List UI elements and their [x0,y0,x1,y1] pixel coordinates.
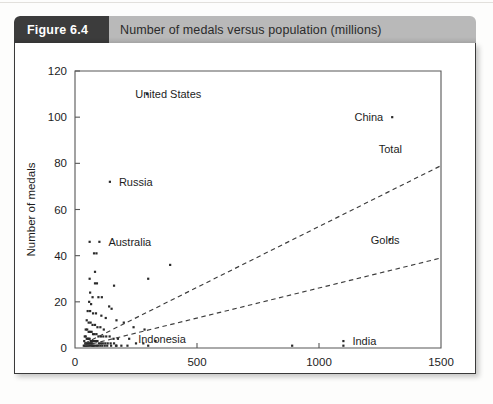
figure-card: Figure 6.4 Number of medals versus popul… [14,16,476,374]
data-point [89,292,91,294]
data-point [132,326,134,328]
figure-title: Number of medals versus population (mill… [120,16,382,43]
data-point [104,342,106,344]
data-point [86,319,88,321]
annotation-total: Total [379,143,402,155]
data-point [87,310,89,312]
data-point [102,342,104,344]
data-point [93,333,95,335]
data-point [126,345,128,347]
data-point [94,282,96,284]
data-point [169,264,171,266]
annotation-australia: Australia [108,236,152,248]
data-point [91,345,93,347]
data-point [100,315,102,317]
data-point [111,308,113,310]
data-point [105,317,107,319]
y-tick-label: 60 [54,204,67,216]
data-points [83,93,394,347]
data-point [147,345,149,347]
data-point [88,322,90,324]
plot-frame [75,71,441,348]
data-point [85,335,87,337]
data-point [112,338,114,340]
data-point [90,303,92,305]
data-point [90,322,92,324]
trend-line-total [85,166,441,344]
data-point [105,335,107,337]
data-point [113,342,115,344]
data-point [102,335,104,337]
data-point [98,241,100,243]
data-point [89,278,91,280]
annotation-china: China [354,111,384,123]
data-point [100,342,102,344]
data-point [106,345,108,347]
x-tick-label: 1000 [306,356,332,368]
data-point [135,342,137,344]
point-annotations: United StatesChinaRussiaAustraliaIndones… [108,88,402,347]
trend-lines [85,166,441,346]
y-tick-label: 120 [48,65,67,77]
data-point [291,345,293,347]
data-point [107,342,109,344]
y-tick-label: 40 [54,250,67,262]
figure-body: 020406080100120 050010001500 United Stat… [14,43,476,374]
data-point [89,338,91,340]
data-point [115,319,117,321]
data-point [99,326,101,328]
y-tick-label: 100 [48,111,67,123]
data-point [143,328,145,330]
data-point [97,296,99,298]
data-point [128,338,130,340]
data-point [391,116,393,118]
figure-number-label: Figure 6.4 [14,16,109,43]
x-tick-label: 0 [72,356,78,368]
y-tick-label: 0 [61,342,67,354]
data-point [95,252,97,254]
data-point [97,345,99,347]
data-point [89,310,91,312]
data-point [108,305,110,307]
data-point [115,345,117,347]
annotation-russia: Russia [119,176,154,188]
data-point [104,345,106,347]
data-point [96,326,98,328]
data-point [94,324,96,326]
data-point [96,282,98,284]
data-point [113,285,115,287]
data-point [95,333,97,335]
annotation-indonesia: Indonesia [138,333,187,345]
data-point [120,345,122,347]
x-axis-ticks: 050010001500 [72,343,454,368]
data-point [92,312,94,314]
data-point [94,271,96,273]
data-point [103,328,105,330]
data-point [101,345,103,347]
data-point [91,324,93,326]
data-point [89,241,91,243]
data-point [88,301,90,303]
y-tick-label: 80 [54,157,67,169]
data-point [96,340,98,342]
data-point [342,345,344,347]
chart-axes [75,71,441,348]
data-point [110,342,112,344]
data-point [86,328,88,330]
data-point [109,181,111,183]
figure-header-bar: Figure 6.4 Number of medals versus popul… [14,16,476,43]
data-point [93,252,95,254]
data-point [101,296,103,298]
scatter-chart: 020406080100120 050010001500 United Stat… [15,43,477,374]
data-point [147,278,149,280]
x-tick-label: 1500 [428,356,454,368]
data-point [83,340,85,342]
annotation-golds: Golds [371,234,400,246]
scan-artifact-line [0,2,493,3]
annotation-india: India [352,335,377,347]
data-point [91,296,93,298]
annotation-united-states: United States [135,88,202,100]
data-point [95,312,97,314]
y-axis-title: Number of medals [25,162,37,256]
data-point [110,345,112,347]
